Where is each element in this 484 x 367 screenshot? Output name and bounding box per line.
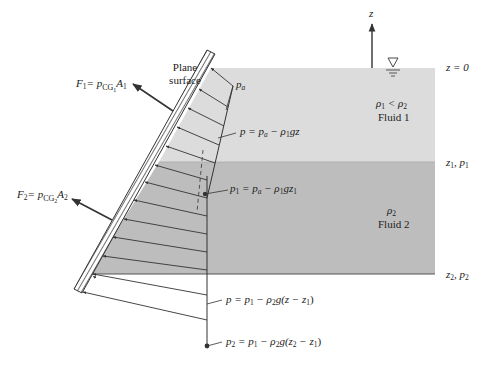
z0-text: z = 0 (446, 61, 469, 73)
z-axis-label: z (369, 8, 373, 19)
z0-label: z = 0 (446, 62, 469, 73)
eq2-gz: g(z − z (276, 293, 307, 305)
p2eq-gz: g(z (279, 335, 292, 347)
z2p2-label: z2, p2 (446, 269, 469, 282)
rho2-sub-label: 2 (392, 209, 396, 218)
force-F1-arrow (133, 84, 173, 111)
z1p1-label: z1, p1 (446, 157, 469, 170)
eq2-close: ) (310, 293, 314, 305)
p2-sub: 2 (465, 273, 469, 282)
eq2-rho: − ρ (254, 293, 272, 305)
eq2-p: p = p (226, 293, 250, 305)
fluid2-label: Fluid 2 (378, 219, 409, 230)
eq1-rho: − ρ (268, 125, 286, 137)
pa-sub: a (242, 83, 246, 92)
p1eq-rho: − ρ (261, 182, 279, 194)
rho2-label: ρ2 (387, 205, 396, 218)
rho2-sub: 2 (403, 102, 407, 111)
fluid2-pressure-equation: p = p1 − ρ2g(z − z1) (226, 294, 314, 307)
eq1-gz: gz (290, 125, 300, 137)
F2-A-sub: 2 (64, 193, 68, 202)
leader-p2-eq (207, 342, 222, 346)
fluid1-pressure-equation: p = pa − ρ1gz (240, 126, 299, 139)
p1eq-pa: = p (239, 182, 257, 194)
force-F2-arrow (72, 199, 112, 220)
F2-eq: = p (27, 188, 43, 200)
rho-lt: < ρ (385, 97, 403, 109)
p2-p: , p (454, 268, 465, 280)
p2eq-p1: = p (235, 335, 253, 347)
plane-label-line2: surface (162, 75, 208, 86)
p1-sub: 1 (465, 161, 469, 170)
fluid1-label: Fluid 1 (378, 112, 409, 123)
plane-label-line1: Plane (162, 62, 208, 73)
eq1-p: p = p (240, 125, 264, 137)
F1-A-sub: 1 (123, 82, 127, 91)
plane-surface-label: Plane surface (162, 62, 208, 86)
F2: F (17, 188, 24, 200)
p1eq-gz: gz (283, 182, 293, 194)
F2-cg: CG (43, 194, 54, 203)
F1: F (76, 77, 83, 89)
F1-cg: CG (102, 83, 113, 92)
p1-equation: p1 = pa − ρ1gz1 (230, 183, 297, 196)
p2eq-close: ) (318, 335, 322, 347)
force-F2-label: F2= pCG2A2 (17, 189, 68, 204)
p1-p: , p (454, 156, 465, 168)
density-comparison: ρ1 < ρ2 (376, 98, 407, 111)
F1-eq: = p (86, 77, 102, 89)
p2eq-rho: − ρ (257, 335, 275, 347)
leader-fluid2-eq (207, 300, 222, 304)
pa-label: pa (236, 79, 245, 92)
p2eq-minus-z: − z (297, 335, 314, 347)
force-F1-label: F1= pCG1A1 (76, 78, 127, 93)
p2-equation: p2 = p1 − ρ2g(z2 − z1) (226, 336, 321, 349)
p1eq-sub-z: 1 (293, 187, 297, 196)
